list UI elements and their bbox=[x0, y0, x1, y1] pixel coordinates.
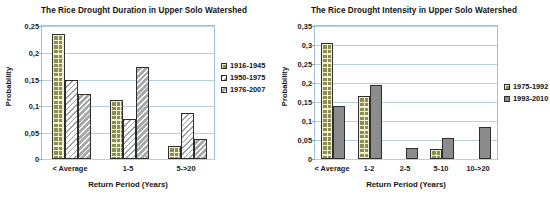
legend-swatch-icon bbox=[221, 63, 227, 69]
legend-item: 1975-1992 bbox=[504, 82, 548, 91]
y-tick-mark bbox=[312, 159, 315, 160]
bar-1950-1975 bbox=[181, 113, 194, 159]
x-axis-title-duration: Return Period (Years) bbox=[88, 180, 168, 189]
y-axis-title-duration: Probability bbox=[2, 0, 16, 187]
bar-1950-1975 bbox=[65, 80, 78, 159]
bar-group bbox=[100, 26, 158, 159]
legend-label: 1976-2007 bbox=[230, 85, 265, 94]
bar-1976-2007 bbox=[194, 139, 207, 160]
legend-label: 1993-2010 bbox=[513, 94, 548, 103]
x-tick-label: 10->20 bbox=[466, 164, 489, 173]
bar-group bbox=[315, 26, 351, 159]
bar-1950-1975 bbox=[123, 119, 136, 159]
x-tick-label: < Average bbox=[53, 164, 88, 173]
legend-swatch-icon bbox=[504, 96, 510, 102]
y-tick-label: 0,25 bbox=[298, 60, 312, 69]
x-tick-label: 1-2 bbox=[364, 164, 375, 173]
y-tick-label: 0,1 bbox=[29, 102, 39, 111]
bars-layer-intensity bbox=[315, 26, 497, 159]
x-axis-title-intensity: Return Period (Years) bbox=[366, 180, 446, 189]
bar-1976-2007 bbox=[136, 67, 149, 159]
y-tick-label: 0,2 bbox=[302, 79, 312, 88]
bar-group bbox=[461, 26, 497, 159]
gridline bbox=[42, 159, 214, 160]
y-tick-label: 0,3 bbox=[302, 41, 312, 50]
y-tick-label: 0 bbox=[35, 155, 39, 164]
y-tick-label: 0 bbox=[308, 155, 312, 164]
bar-1976-2007 bbox=[78, 94, 91, 159]
gridline bbox=[315, 159, 497, 160]
legend-label: 1975-1992 bbox=[513, 82, 548, 91]
plot-area-intensity: 0,35 0,3 0,25 0,2 0,15 0,1 0,05 0 bbox=[314, 25, 498, 160]
legend-item: 1916-1945 bbox=[221, 61, 265, 70]
y-tick-label: 0,1 bbox=[302, 117, 312, 126]
bar-1975-1992 bbox=[321, 43, 333, 160]
bars-layer-duration bbox=[42, 26, 214, 159]
bar-1993-2010 bbox=[479, 127, 491, 159]
chart-panel-intensity: The Rice Drought Intensity in Upper Solo… bbox=[276, 0, 548, 201]
chart-panel-duration: The Rice Drought Duration in Upper Solo … bbox=[0, 0, 276, 201]
bar-1975-1992 bbox=[430, 149, 442, 159]
bar-1916-1945 bbox=[52, 34, 65, 159]
legend-label: 1950-1975 bbox=[230, 73, 265, 82]
x-tick-label: < Average bbox=[315, 164, 350, 173]
bar-group bbox=[424, 26, 460, 159]
bar-1916-1945 bbox=[168, 146, 181, 160]
bar-1993-2010 bbox=[442, 138, 454, 159]
legend-intensity: 1975-1992 1993-2010 bbox=[504, 82, 548, 103]
legend-swatch-icon bbox=[221, 87, 227, 93]
y-tick-label: 0,05 bbox=[25, 129, 39, 138]
y-tick-label: 0,05 bbox=[298, 136, 312, 145]
x-tick-label: 5->20 bbox=[176, 164, 195, 173]
bar-1975-1992 bbox=[358, 96, 370, 159]
y-axis-title-intensity: Probability bbox=[278, 0, 292, 187]
y-tick-label: 0,15 bbox=[25, 75, 39, 84]
bar-1993-2010 bbox=[406, 148, 418, 159]
y-tick-mark bbox=[39, 159, 42, 160]
plot-area-duration: 0,25 0,2 0,15 0,1 0,05 0 bbox=[41, 25, 215, 160]
y-tick-label: 0,35 bbox=[298, 22, 312, 31]
legend-label: 1916-1945 bbox=[230, 61, 265, 70]
legend-item: 1976-2007 bbox=[221, 85, 265, 94]
bar-group bbox=[351, 26, 387, 159]
chart-title-intensity: The Rice Drought Intensity in Upper Solo… bbox=[276, 6, 550, 15]
y-axis-title-label-intensity: Probability bbox=[281, 67, 290, 106]
legend-duration: 1916-1945 1950-1975 1976-2007 bbox=[221, 61, 265, 94]
bar-1916-1945 bbox=[110, 100, 123, 159]
x-tick-label: 5-10 bbox=[434, 164, 449, 173]
bar-group bbox=[158, 26, 216, 159]
y-tick-label: 0,15 bbox=[298, 98, 312, 107]
y-axis-title-label-duration: Probability bbox=[5, 67, 14, 106]
legend-item: 1950-1975 bbox=[221, 73, 265, 82]
chart-title-duration: The Rice Drought Duration in Upper Solo … bbox=[0, 6, 282, 15]
bar-1993-2010 bbox=[333, 106, 345, 160]
bar-group bbox=[42, 26, 100, 159]
y-tick-label: 0,25 bbox=[25, 22, 39, 31]
bar-group bbox=[388, 26, 424, 159]
legend-item: 1993-2010 bbox=[504, 94, 548, 103]
legend-swatch-icon bbox=[221, 75, 227, 81]
x-tick-label: 1-5 bbox=[123, 164, 134, 173]
x-tick-label: 2-5 bbox=[400, 164, 411, 173]
y-tick-label: 0,2 bbox=[29, 48, 39, 57]
legend-swatch-icon bbox=[504, 84, 510, 90]
bar-1993-2010 bbox=[370, 85, 382, 159]
